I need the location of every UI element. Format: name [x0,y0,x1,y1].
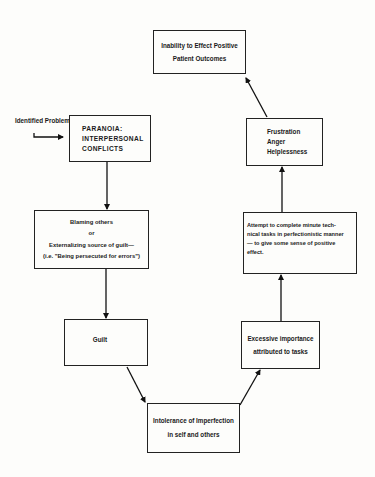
node-frustration: Frustration Anger Helplessness [246,118,323,166]
label-line: Problem [45,117,70,124]
node-text: Frustration [267,127,300,137]
node-text: (i.e. "Being persecuted for errors") [43,251,140,263]
node-text: — to give some sense of positive [247,239,335,248]
node-outcomes: Inability to Effect Positive Patient Out… [153,30,246,74]
node-text: Excessive importance [247,332,313,345]
node-text: Helplessness [267,147,307,157]
node-text: or [89,228,95,240]
node-text: Intolerance of Imperfection [153,414,234,428]
arrow-frustration-to-outcomes [246,78,267,117]
node-text: Anger [267,137,285,147]
arrow-intolerance-to-excessive [240,370,260,405]
node-text: PARANOIA: [82,124,122,134]
node-text: Inability to Effect Positive [161,39,238,52]
node-text: in self and others [167,428,219,442]
node-text: Attempt to complete minute tech- [247,221,336,230]
node-blaming: Blaming others or Externalizing source o… [34,210,149,269]
node-text: Patient Outcomes [173,52,227,65]
arrow-identified-to-paranoia [34,133,63,137]
arrow-guilt-to-intolerance [127,367,145,402]
node-excessive: Excessive importance attributed to tasks [241,321,320,369]
node-paranoia: PARANOIA: INTERPERSONAL CONFLICTS [69,115,151,162]
node-text: Externalizing source of guilt— [49,240,134,252]
node-text: nical tasks in perfectionistic manner [247,230,344,239]
identified-problem-label: Identified Problem [15,117,70,124]
node-text: effect. [247,248,263,257]
label-line: Identified [15,117,43,124]
node-attempt: Attempt to complete minute tech- nical t… [243,212,357,274]
node-guilt: Guilt [64,319,148,366]
node-text: Blaming others [70,217,113,229]
node-text: attributed to tasks [253,345,308,358]
node-text: INTERPERSONAL [82,134,144,144]
node-text: CONFLICTS [82,144,123,154]
node-intolerance: Intolerance of Imperfection in self and … [147,403,240,453]
node-text: Guilt [93,336,107,343]
